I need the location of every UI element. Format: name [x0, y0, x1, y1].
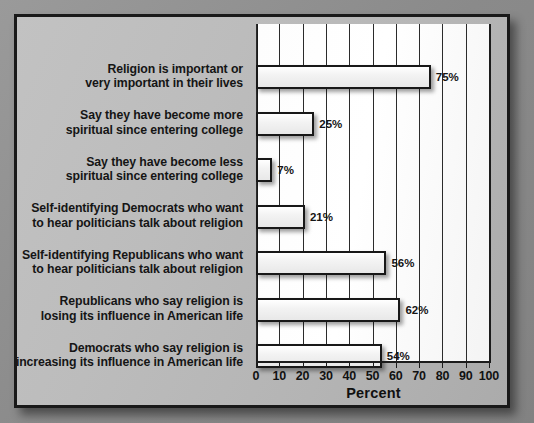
tick-10: [279, 361, 280, 368]
category-label: Self-identifying Democrats who wantto he…: [17, 201, 243, 230]
category-label-line: spiritual since entering college: [17, 169, 243, 184]
category-label-line: Say they have become more: [17, 108, 243, 123]
tick-60: [396, 361, 397, 368]
bar[interactable]: [256, 344, 382, 368]
figure-frame: 75%25%7%21%56%62%54% Religion is importa…: [14, 14, 510, 408]
category-label: Say they have become lessspiritual since…: [17, 155, 243, 184]
bar[interactable]: [256, 298, 400, 322]
tick-50: [373, 361, 374, 368]
tick-70: [419, 361, 420, 368]
tick-40: [349, 361, 350, 368]
category-label-line: to hear politicians talk about religion: [17, 262, 243, 277]
bar-value-label: 75%: [436, 70, 459, 84]
category-label-line: increasing its influence in American lif…: [17, 355, 243, 370]
category-label-line: Republicans who say religion is: [17, 294, 243, 309]
category-label: Republicans who say religion islosing it…: [17, 294, 243, 323]
category-label: Say they have become morespiritual since…: [17, 108, 243, 137]
category-label-line: Religion is important or: [17, 62, 243, 77]
category-label-line: to hear politicians talk about religion: [17, 216, 243, 231]
category-label-line: Self-identifying Democrats who want: [17, 201, 243, 216]
bar-value-label: 62%: [405, 303, 428, 317]
bar[interactable]: [256, 65, 431, 89]
figure-inner: 75%25%7%21%56%62%54% Religion is importa…: [17, 17, 507, 405]
tick-20: [303, 361, 304, 368]
x-axis-line: [256, 361, 491, 363]
bar-value-label: 56%: [391, 256, 414, 270]
bar[interactable]: [256, 205, 305, 229]
chart-screenshot: 75%25%7%21%56%62%54% Religion is importa…: [0, 0, 534, 423]
bar[interactable]: [256, 158, 272, 182]
tick-90: [466, 361, 467, 368]
category-label: Religion is important orvery important i…: [17, 62, 243, 91]
bar-value-label: 7%: [277, 163, 294, 177]
category-label-line: spiritual since entering college: [17, 123, 243, 138]
gridline-90: [466, 24, 467, 361]
category-label-line: Say they have become less: [17, 155, 243, 170]
bar[interactable]: [256, 112, 314, 136]
tick-100: [489, 361, 490, 368]
tick-80: [442, 361, 443, 368]
gridline-100: [489, 24, 491, 361]
category-label: Self-identifying Republicans who wantto …: [17, 248, 243, 277]
category-label-line: Democrats who say religion is: [17, 341, 243, 356]
category-label-line: losing its influence in American life: [17, 309, 243, 324]
category-label: Democrats who say religion isincreasing …: [17, 341, 243, 370]
tick-label-100: 100: [474, 369, 504, 383]
category-label-line: Self-identifying Republicans who want: [17, 248, 243, 263]
tick-0: [256, 361, 257, 368]
x-axis-title: Percent: [256, 385, 491, 401]
bar-value-label: 21%: [310, 210, 333, 224]
bar-value-label: 25%: [319, 117, 342, 131]
bar[interactable]: [256, 251, 386, 275]
tick-30: [326, 361, 327, 368]
category-label-line: very important in their lives: [17, 76, 243, 91]
